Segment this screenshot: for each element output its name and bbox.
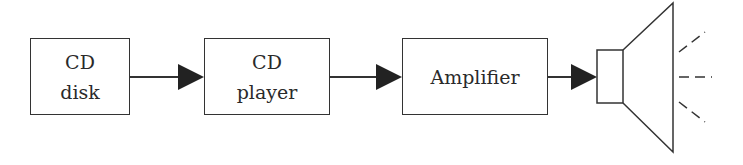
sound-wave-lines [679,32,712,122]
arrow-cd-disk-to-cd-player [130,64,204,90]
arrow-cd-player-to-amplifier [330,64,402,90]
speaker-icon [597,3,673,152]
block-cd-player: CD player [204,38,330,115]
block-label-line: CD [65,47,95,77]
block-label-line: disk [60,77,100,107]
block-cd-disk: CD disk [30,38,130,115]
block-amplifier: Amplifier [402,38,548,115]
block-label-line: Amplifier [430,62,519,92]
arrow-amplifier-to-speaker [548,64,597,90]
block-label-line: player [237,77,298,107]
block-label-line: CD [252,47,282,77]
